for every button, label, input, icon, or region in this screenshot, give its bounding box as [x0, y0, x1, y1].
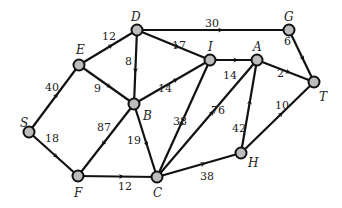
edge-S-E: [29, 65, 79, 132]
node-label-A: A: [252, 40, 262, 54]
edge-D-B: [134, 30, 137, 104]
edge-weight-label: 14: [223, 69, 237, 82]
edge-weight-label: 38: [200, 170, 214, 183]
node-label-B: B: [142, 109, 152, 123]
node-G: [284, 25, 295, 36]
edge-weight-label: 10: [275, 99, 289, 112]
node-I: [205, 55, 216, 66]
edge-C-H: [157, 153, 241, 177]
edge-weight-label: 14: [158, 82, 172, 95]
edge-weight-label: 2: [277, 67, 284, 80]
node-F: [73, 171, 84, 182]
node-label-H: H: [247, 156, 259, 170]
edge-C-A: [157, 60, 257, 177]
edge-weight-label: 38: [173, 115, 187, 128]
edge-E-B: [79, 65, 134, 104]
edge-weight-label: 18: [45, 132, 59, 145]
node-label-G: G: [284, 10, 294, 24]
edge-weight-label: 17: [172, 39, 186, 52]
node-T: [309, 77, 320, 88]
edge-weight-label: 12: [102, 30, 116, 43]
edge-weight-label: 12: [118, 180, 132, 193]
edge-weight-label: 87: [97, 121, 111, 134]
edges-group: [29, 30, 314, 177]
node-A: [252, 55, 263, 66]
edge-weight-label: 30: [205, 17, 219, 30]
node-label-D: D: [130, 10, 141, 24]
node-label-E: E: [75, 43, 85, 57]
edge-weight-label: 19: [127, 134, 141, 147]
edge-weight-label: 42: [232, 122, 246, 135]
node-label-I: I: [207, 40, 213, 54]
edge-weight-label: 6: [284, 35, 291, 48]
network-diagram: 4018129308176148719143827612384210 SEDGB…: [0, 0, 342, 208]
node-label-T: T: [319, 90, 328, 104]
edge-B-F: [78, 104, 134, 176]
edge-weight-label: 76: [211, 104, 225, 117]
node-H: [236, 148, 247, 159]
node-B: [129, 99, 140, 110]
edge-weight-label: 9: [94, 82, 101, 95]
edge-B-I: [134, 60, 210, 104]
node-C: [152, 172, 163, 183]
node-label-F: F: [73, 186, 83, 200]
node-D: [132, 25, 143, 36]
node-E: [74, 60, 85, 71]
node-label-C: C: [153, 186, 162, 200]
edge-weight-label: 8: [125, 55, 132, 68]
edge-weight-label: 40: [45, 81, 59, 94]
node-label-S: S: [20, 116, 28, 130]
edge-F-C: [78, 176, 157, 177]
